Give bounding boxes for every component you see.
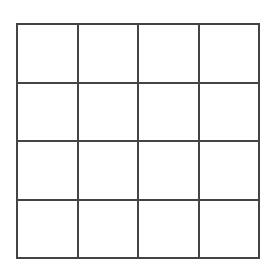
grid-cell-r2-c3[interactable] bbox=[200, 142, 261, 201]
grid-cell-r1-c1[interactable] bbox=[79, 84, 140, 143]
grid-cell-r0-c1[interactable] bbox=[79, 25, 140, 84]
grid-cell-r3-c1[interactable] bbox=[79, 201, 140, 260]
grid-cell-r3-c0[interactable] bbox=[18, 201, 79, 260]
grid-cell-r2-c2[interactable] bbox=[139, 142, 200, 201]
grid-cell-r0-c2[interactable] bbox=[139, 25, 200, 84]
grid-cell-r0-c3[interactable] bbox=[200, 25, 261, 84]
grid-cell-r1-c2[interactable] bbox=[139, 84, 200, 143]
grid-cell-r2-c1[interactable] bbox=[79, 142, 140, 201]
grid-cell-r3-c2[interactable] bbox=[139, 201, 200, 260]
grid-cell-r1-c3[interactable] bbox=[200, 84, 261, 143]
grid-cell-r2-c0[interactable] bbox=[18, 142, 79, 201]
grid-cell-r3-c3[interactable] bbox=[200, 201, 261, 260]
grid-cell-r0-c0[interactable] bbox=[18, 25, 79, 84]
grid-board bbox=[16, 23, 260, 259]
grid-cell-r1-c0[interactable] bbox=[18, 84, 79, 143]
